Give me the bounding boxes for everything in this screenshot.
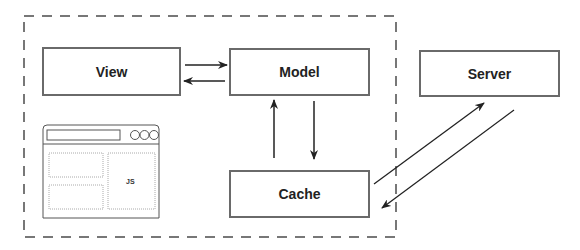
view-label: View: [96, 64, 128, 80]
model-label: Model: [279, 64, 319, 80]
browser-window-illustration: [43, 125, 159, 218]
js-panel-label: JS: [126, 178, 135, 185]
server-node: Server: [419, 50, 560, 97]
model-node: Model: [229, 48, 370, 96]
arrow-cache-to-server: [374, 103, 484, 184]
arrow-server-to-cache: [382, 110, 514, 208]
view-node: View: [42, 47, 181, 96]
cache-label: Cache: [278, 186, 320, 202]
cache-node: Cache: [229, 170, 370, 218]
server-label: Server: [468, 66, 512, 82]
